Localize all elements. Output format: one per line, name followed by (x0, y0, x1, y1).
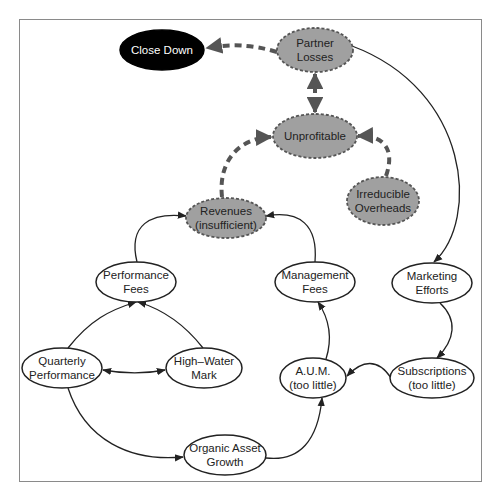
node-label: (insufficient) (195, 219, 257, 231)
node-label: (too little) (408, 379, 455, 391)
node-irreducible-overheads: IrreducibleOverheads (347, 177, 419, 225)
node-label: Close Down (131, 44, 193, 56)
node-label: Overheads (355, 202, 412, 214)
node-label: Irreducible (356, 188, 410, 200)
edge-quarterly-highwater (103, 370, 165, 373)
node-label: Fees (123, 283, 149, 295)
node-label: Management (281, 269, 349, 281)
node-management-fees: ManagementFees (275, 262, 355, 302)
node-partner-losses: PartnerLosses (277, 28, 353, 72)
node-label: Marketing (407, 270, 458, 282)
edges-layer (68, 45, 459, 458)
edge-aum-to-management-fees (318, 302, 329, 359)
edge-partner-losses-to-close-down (207, 45, 277, 52)
node-subscriptions: Subscriptions(too little) (390, 358, 474, 398)
node-label: High–Water (174, 355, 234, 367)
node-shape (392, 263, 472, 303)
edge-performance-fees-to-revenues (135, 215, 186, 262)
node-high-water-mark: High–WaterMark (166, 348, 242, 388)
edge-marketing-to-subscriptions (437, 303, 452, 358)
node-performance-fees: PerformanceFees (96, 262, 176, 302)
node-close-down: Close Down (120, 30, 204, 70)
edge-highwater-to-performance-fees (138, 302, 203, 348)
node-label: Partner (296, 37, 334, 49)
edge-revenues-to-unprofitable (222, 137, 271, 197)
nodes-layer: Close DownPartnerLossesUnprofitableIrred… (22, 28, 474, 475)
edge-overheads-to-unprofitable (358, 136, 389, 176)
node-label: Unprofitable (284, 130, 346, 142)
node-label: Revenues (200, 205, 252, 217)
node-shape (347, 177, 419, 225)
node-label: A.U.M. (295, 365, 330, 377)
node-marketing-efforts: MarketingEfforts (392, 263, 472, 303)
node-label: Efforts (415, 284, 448, 296)
node-shape (275, 262, 355, 302)
node-label: (too little) (289, 379, 336, 391)
node-revenues: Revenues(insufficient) (186, 198, 266, 238)
node-aum: A.U.M.(too little) (280, 358, 346, 398)
edge-management-fees-to-revenues (266, 215, 315, 262)
node-label: Quarterly (38, 355, 86, 367)
node-shape (184, 435, 266, 475)
node-label: Organic Asset (189, 442, 261, 454)
node-shape (186, 198, 266, 238)
node-quarterly-performance: QuarterlyPerformance (22, 348, 102, 388)
node-label: Fees (302, 283, 328, 295)
node-label: Mark (191, 369, 217, 381)
edge-subscriptions-to-aum (347, 364, 391, 379)
edge-organic-growth-to-aum (266, 398, 322, 458)
node-label: Losses (297, 51, 334, 63)
node-organic-asset-growth: Organic AssetGrowth (184, 435, 266, 475)
node-shape (390, 358, 474, 398)
node-shape (166, 348, 242, 388)
node-shape (277, 28, 353, 72)
edge-partner-losses-to-marketing (352, 46, 459, 262)
node-shape (22, 348, 102, 388)
edge-quarterly-to-organic-growth (68, 388, 183, 458)
causal-loop-diagram: Close DownPartnerLossesUnprofitableIrred… (0, 0, 500, 496)
node-label: Performance (103, 269, 169, 281)
edge-quarterly-to-performance-fees (68, 302, 136, 348)
node-label: Subscriptions (397, 365, 466, 377)
node-unprofitable: Unprofitable (273, 114, 357, 158)
node-label: Growth (206, 456, 243, 468)
node-label: Performance (29, 369, 95, 381)
node-shape (96, 262, 176, 302)
node-shape (280, 358, 346, 398)
